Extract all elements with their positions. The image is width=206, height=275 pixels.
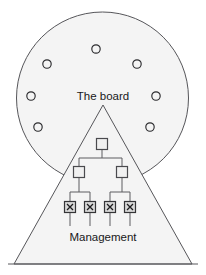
- org-leaf-node-1[interactable]: [65, 202, 76, 213]
- diagram-canvas: The board Management: [0, 0, 206, 275]
- management-label: Management: [69, 231, 137, 243]
- org-leaf-node-3[interactable]: [105, 202, 116, 213]
- board-management-diagram: The board Management: [0, 0, 206, 275]
- org-leaf-node-4[interactable]: [125, 202, 136, 213]
- board-label: The board: [77, 90, 129, 102]
- org-node-middle-right[interactable]: [117, 167, 128, 178]
- org-node-middle-left[interactable]: [74, 167, 85, 178]
- org-leaf-node-2[interactable]: [85, 202, 96, 213]
- org-node-root[interactable]: [97, 139, 108, 150]
